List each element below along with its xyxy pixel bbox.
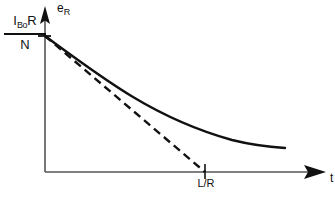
x-axis-name-label: t — [330, 172, 333, 184]
tangent-line-initial-slope — [45, 36, 205, 172]
exponential-decay-curve — [45, 36, 285, 148]
fraction-numerator: IBoR — [3, 14, 47, 32]
figure-exponential-decay-plot: IBoR N eR t L/R — [0, 0, 335, 197]
plot-canvas — [0, 0, 335, 197]
numerator-subscript-bo: Bo — [17, 20, 27, 30]
y-axis-name-label: eR — [57, 2, 70, 17]
y-axis-value-label: IBoR N — [3, 14, 47, 51]
y-axis-name-subscript: R — [64, 7, 71, 17]
y-axis-name-symbol: e — [57, 1, 64, 15]
x-axis-tick-label-lr: L/R — [190, 178, 222, 189]
fraction-denominator: N — [3, 37, 47, 51]
fraction-bar — [4, 33, 46, 35]
numerator-symbol-r: R — [27, 13, 36, 28]
